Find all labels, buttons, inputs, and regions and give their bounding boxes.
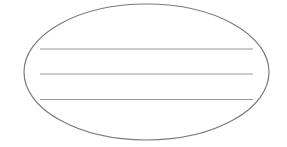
ellipse-outline [24, 4, 269, 140]
ellipse-with-lines-diagram [0, 0, 287, 147]
diagram-canvas [0, 0, 287, 147]
